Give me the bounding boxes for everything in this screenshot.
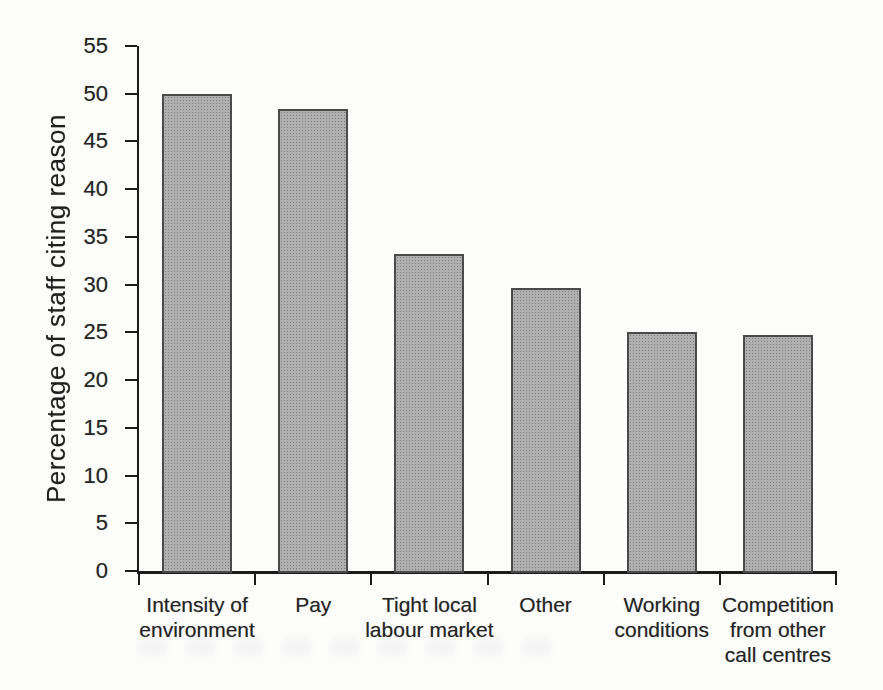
y-tick-label: 5 — [28, 510, 108, 536]
y-tick — [125, 188, 137, 190]
bar-pay — [278, 109, 348, 573]
y-tick — [125, 522, 137, 524]
scan-artifact — [140, 638, 570, 656]
bar-other — [511, 288, 581, 574]
y-tick-label: 45 — [28, 128, 108, 154]
y-tick-label: 30 — [28, 272, 108, 298]
y-tick-label: 50 — [28, 81, 108, 107]
y-tick-label: 55 — [28, 33, 108, 59]
x-tick — [254, 573, 256, 585]
y-tick-label: 35 — [28, 224, 108, 250]
y-tick-label: 15 — [28, 415, 108, 441]
bar-intensity-of-environment — [162, 94, 232, 573]
y-tick — [125, 427, 137, 429]
plot-area: 0510152025303540455055Intensity of envir… — [0, 0, 883, 690]
x-tick — [370, 573, 372, 585]
bar-chart-figure: Percentage of staff citing reason 051015… — [0, 0, 883, 690]
y-tick-label: 25 — [28, 319, 108, 345]
x-tick — [487, 573, 489, 585]
bar-tight-local-labour-market — [394, 254, 464, 573]
bar-working-conditions — [627, 332, 697, 573]
x-tick — [835, 573, 837, 585]
y-tick — [125, 475, 137, 477]
bar-competition-from-other-call-centres — [743, 335, 813, 573]
y-tick-label: 10 — [28, 463, 108, 489]
y-tick — [125, 236, 137, 238]
y-tick-label: 40 — [28, 176, 108, 202]
y-axis-line — [137, 46, 139, 573]
y-tick — [125, 284, 137, 286]
x-category-label: Competition from other call centres — [693, 592, 863, 667]
y-tick — [125, 331, 137, 333]
y-tick — [125, 140, 137, 142]
x-tick — [719, 573, 721, 585]
y-tick — [125, 93, 137, 95]
y-tick — [125, 570, 137, 572]
y-tick — [125, 45, 137, 47]
y-tick-label: 20 — [28, 367, 108, 393]
y-tick — [125, 379, 137, 381]
y-tick-label: 0 — [28, 558, 108, 584]
x-tick — [138, 573, 140, 585]
x-tick — [603, 573, 605, 585]
